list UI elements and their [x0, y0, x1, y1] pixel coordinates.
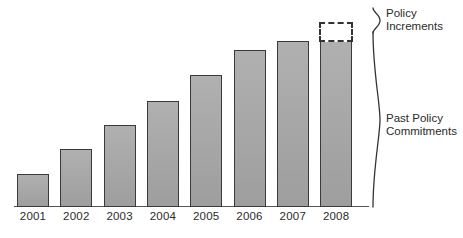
bar-fill: [235, 51, 265, 206]
bar-2001[interactable]: [17, 174, 49, 207]
x-tick-label-2008: 2008: [312, 210, 360, 222]
bar-fill: [321, 42, 351, 206]
clipped-caption-strip: [0, 231, 463, 238]
bar-fill: [61, 150, 91, 206]
policy-increments-label-line-1: Policy: [386, 7, 443, 20]
bar-2007[interactable]: [277, 41, 309, 207]
x-tick-label-2005: 2005: [182, 210, 230, 222]
x-tick-label-2002: 2002: [52, 210, 100, 222]
past-policy-commitments-label: Past Policy Commitments: [386, 112, 457, 138]
bar-fill: [18, 175, 48, 206]
x-tick-label-2006: 2006: [226, 210, 274, 222]
policy-increments-brace: [371, 7, 383, 34]
bar-fill: [148, 102, 178, 206]
past-policy-commitments-brace: [371, 31, 383, 208]
past-policy-commitments-label-line-1: Past Policy: [386, 112, 457, 125]
bar-2008[interactable]: [320, 41, 352, 207]
past-policy-commitments-label-line-2: Commitments: [386, 125, 457, 138]
bar-fill: [191, 76, 221, 206]
policy-increments-label-line-2: Increments: [386, 20, 443, 33]
policy-increment-dashed-box[interactable]: [319, 22, 353, 43]
bar-fill: [105, 126, 135, 207]
x-tick-label-2004: 2004: [139, 210, 187, 222]
bar-2003[interactable]: [104, 125, 136, 208]
plot-area: 2001 2002 2003 2004 2005 2006 2007 2008: [0, 0, 375, 212]
bar-chart-figure: 2001 2002 2003 2004 2005 2006 2007 2008 …: [0, 0, 463, 238]
x-tick-label-2001: 2001: [9, 210, 57, 222]
policy-increments-label: Policy Increments: [386, 7, 443, 33]
bar-2002[interactable]: [60, 149, 92, 207]
bar-fill: [278, 42, 308, 206]
x-tick-label-2003: 2003: [96, 210, 144, 222]
bar-2005[interactable]: [190, 75, 222, 207]
bar-2006[interactable]: [234, 50, 266, 207]
x-tick-label-2007: 2007: [269, 210, 317, 222]
bar-2004[interactable]: [147, 101, 179, 207]
